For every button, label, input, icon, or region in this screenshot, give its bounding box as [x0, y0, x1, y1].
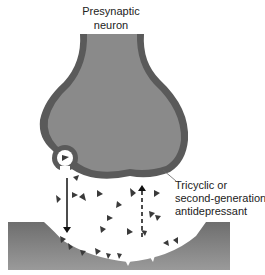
postsynaptic-neuron — [8, 222, 230, 270]
drug-label-line3: antidepressant — [175, 205, 247, 217]
vesicle-opening — [60, 166, 70, 172]
synapse-diagram: Presynaptic neuron — [0, 0, 265, 275]
reuptake-arrow — [138, 185, 146, 237]
drug-label-line1: Tricyclic or — [175, 179, 227, 191]
neurotransmitters — [56, 175, 178, 259]
presynaptic-label-line1: Presynaptic — [82, 5, 140, 17]
release-arrow — [63, 178, 71, 233]
drug-label-line2: second-generation — [175, 192, 265, 204]
presynaptic-label-line2: neuron — [94, 19, 128, 31]
